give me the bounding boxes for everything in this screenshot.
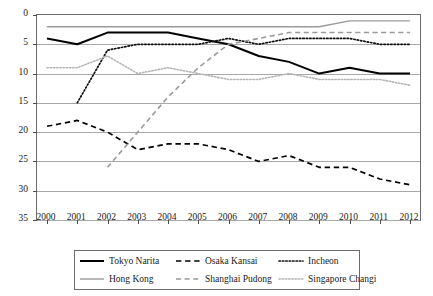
legend-label: Shanghai Pudong: [205, 274, 272, 284]
plot-area: [36, 14, 421, 221]
y-tick-label: 0: [6, 9, 28, 19]
chart-legend: Tokyo NaritaOsaka KansaiIncheonHong Kong…: [74, 250, 360, 290]
x-tick-label: 2012: [389, 212, 429, 222]
legend-label: Hong Kong: [109, 274, 154, 284]
y-tick-label: 30: [6, 185, 28, 195]
legend-item-hong-kong[interactable]: Hong Kong: [79, 274, 175, 284]
legend-item-osaka-kansai[interactable]: Osaka Kansai: [175, 256, 278, 266]
legend-item-shanghai-pudong[interactable]: Shanghai Pudong: [175, 274, 278, 284]
y-tick-label: 35: [6, 214, 28, 224]
series-line-hong-kong: [47, 21, 410, 27]
legend-label: Osaka Kansai: [205, 256, 258, 266]
legend-item-incheon[interactable]: Incheon: [278, 256, 365, 266]
legend-item-singapore-changi[interactable]: Singapore Changi: [278, 274, 365, 284]
legend-swatch-icon: [278, 274, 304, 284]
y-tick-label: 25: [6, 155, 28, 165]
y-tick-label: 15: [6, 97, 28, 107]
legend-swatch-icon: [175, 256, 201, 266]
chart-container: 05101520253035 2000200120022003200420052…: [0, 0, 433, 296]
series-lines: [37, 15, 420, 220]
y-tick-label: 10: [6, 68, 28, 78]
legend-label: Tokyo Narita: [109, 256, 159, 266]
legend-swatch-icon: [175, 274, 201, 284]
legend-item-tokyo-narita[interactable]: Tokyo Narita: [79, 256, 175, 266]
legend-swatch-icon: [79, 256, 105, 266]
legend-swatch-icon: [278, 256, 304, 266]
legend-label: Singapore Changi: [308, 274, 376, 284]
y-tick-label: 20: [6, 126, 28, 136]
legend-swatch-icon: [79, 274, 105, 284]
series-line-osaka-kansai: [47, 120, 410, 184]
y-tick-label: 5: [6, 38, 28, 48]
legend-label: Incheon: [308, 256, 339, 266]
